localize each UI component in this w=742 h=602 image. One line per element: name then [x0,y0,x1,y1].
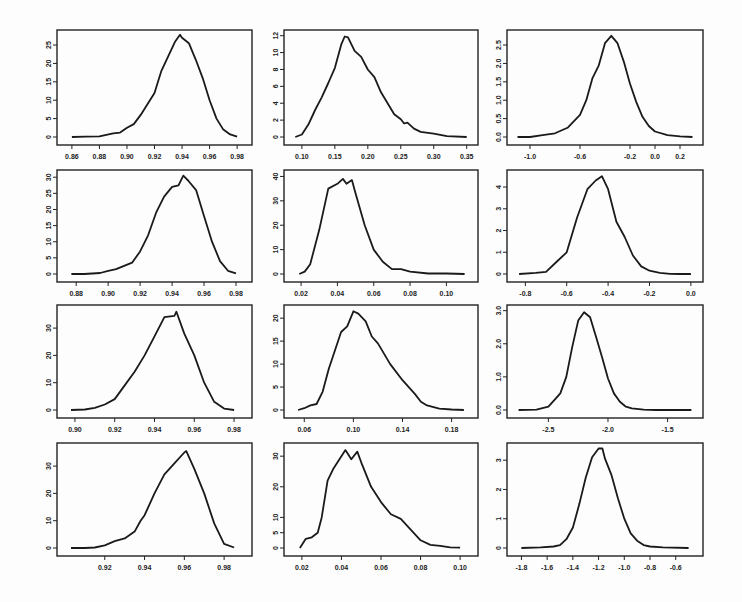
y-tick-label: 3.0 [495,306,502,316]
x-tick-label: 0.0 [686,290,696,297]
x-tick-label: 0.02 [295,564,309,571]
y-tick-label: 0 [45,135,52,139]
x-tick-label: 0.30 [427,153,441,160]
y-tick-label: 1.5 [495,77,502,87]
density-curve [300,450,460,548]
x-tick-label: -1.5 [662,426,674,433]
x-tick-label: -1.0 [618,564,630,571]
x-tick-label: 0.14 [396,426,410,433]
density-curve [519,176,691,274]
y-tick-label: 40 [272,172,279,180]
density-panel-r3c3: -2.5-2.0-1.50.01.02.03.0 [495,305,703,433]
x-tick-label: 0.20 [361,153,375,160]
density-curve [299,179,464,274]
y-tick-label: 5 [272,385,279,389]
y-tick-label: 0 [272,272,279,276]
y-tick-label: 0 [45,408,52,412]
panel-frame [507,30,703,145]
x-tick-label: 0.06 [297,426,311,433]
x-tick-label: -0.2 [643,290,655,297]
y-tick-label: 12 [272,32,279,40]
y-tick-label: 2 [495,487,502,491]
x-tick-label: 0.94 [138,564,152,571]
y-tick-label: 0.5 [495,114,502,124]
density-curve [72,35,237,137]
x-tick-label: -1.0 [524,153,536,160]
panel-frame [284,30,478,145]
density-curve [298,311,464,410]
y-tick-label: 2 [495,228,502,232]
x-tick-label: 0.92 [133,290,147,297]
y-tick-label: 2.0 [495,339,502,349]
x-tick-label: 0.04 [335,564,349,571]
x-tick-label: 0.06 [374,564,388,571]
x-tick-label: 0.96 [187,426,201,433]
x-tick-label: -2.0 [602,426,614,433]
panel-frame [284,443,478,556]
density-curve [71,451,234,548]
density-curve [519,312,692,410]
y-tick-label: 0 [272,408,279,412]
y-tick-label: 0 [272,135,279,139]
y-tick-label: 20 [45,489,52,497]
y-tick-label: 30 [45,324,52,332]
y-tick-label: 30 [45,173,52,181]
x-tick-label: -1.2 [593,564,605,571]
y-tick-label: 15 [45,78,52,86]
density-panel-r1c1: 0.860.880.900.920.940.960.980510152025 [45,30,252,160]
y-tick-label: 30 [45,462,52,470]
density-curve [71,312,234,410]
x-tick-label: 0.10 [453,564,467,571]
y-tick-label: 20 [45,59,52,67]
x-tick-label: 0.90 [120,153,134,160]
y-tick-label: 5 [45,117,52,121]
y-tick-label: 10 [272,513,279,521]
x-tick-label: 0.94 [148,426,162,433]
density-panel-r1c3: -1.0-0.6-0.20.00.20.00.51.01.52.02.5 [495,30,703,160]
y-tick-label: 10 [272,360,279,368]
x-tick-label: 0.25 [394,153,408,160]
y-tick-label: 10 [45,379,52,387]
y-tick-label: 3 [495,458,502,462]
y-tick-label: 2 [272,118,279,122]
y-tick-label: 25 [45,41,52,49]
x-tick-label: 0.06 [367,290,381,297]
panel-frame [57,305,252,418]
x-tick-label: 0.92 [108,426,122,433]
y-tick-label: 8 [272,67,279,71]
density-grid-figure: 0.860.880.900.920.940.960.9805101520250.… [0,0,742,602]
x-tick-label: 0.88 [69,290,83,297]
y-tick-label: 4 [495,185,502,189]
y-tick-label: 0.0 [495,132,502,142]
panel-frame [507,305,703,418]
x-tick-label: 0.98 [229,290,243,297]
x-tick-label: -0.8 [519,290,531,297]
x-tick-label: 0.15 [328,153,342,160]
y-tick-label: 5 [272,531,279,535]
density-panel-r4c2: 0.020.040.060.080.1005102030 [272,443,478,571]
x-tick-label: 0.90 [101,290,115,297]
y-tick-label: 20 [272,314,279,322]
density-curve [521,449,688,549]
x-tick-label: 0.92 [148,153,162,160]
y-tick-label: 4 [272,101,279,105]
density-panel-r2c2: 0.020.040.060.080.10010203040 [272,170,478,297]
y-tick-label: 6 [272,84,279,88]
x-tick-label: 0.08 [403,290,417,297]
y-tick-label: 1.0 [495,372,502,382]
y-tick-label: 0 [45,272,52,276]
y-tick-label: 0 [495,546,502,550]
x-tick-label: 0.94 [175,153,189,160]
y-tick-label: 1 [495,517,502,521]
density-panel-r4c1: 0.920.940.960.980102030 [45,443,252,571]
x-tick-label: 0.86 [65,153,79,160]
x-tick-label: 0.94 [165,290,179,297]
x-tick-label: -1.4 [567,564,579,571]
density-curve [71,176,236,274]
x-tick-label: 0.98 [227,426,241,433]
x-tick-label: -0.6 [670,564,682,571]
panel-frame [507,170,703,282]
density-panel-r4c3: -1.8-1.6-1.4-1.2-1.0-0.8-0.60123 [495,443,703,571]
x-tick-label: 0.10 [295,153,309,160]
density-panel-r3c1: 0.900.920.940.960.980102030 [45,305,252,433]
